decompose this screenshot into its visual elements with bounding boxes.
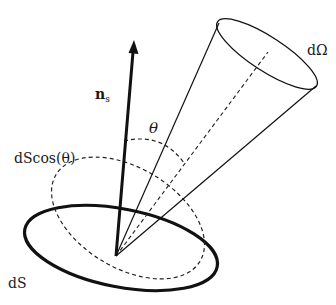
projected-area-label: dScos(θ) bbox=[14, 150, 75, 166]
normal-arrowhead-icon bbox=[129, 40, 139, 54]
normal-vector-shaft bbox=[116, 52, 133, 256]
surface-label: dS bbox=[8, 275, 27, 291]
solid-angle-label: dΩ bbox=[307, 42, 328, 58]
theta-label: θ bbox=[149, 119, 158, 137]
solid-angle-diagram: ns θ dScos(θ) dΩ dS bbox=[0, 0, 336, 305]
normal-label: ns bbox=[95, 86, 110, 104]
theta-arc bbox=[124, 139, 184, 163]
